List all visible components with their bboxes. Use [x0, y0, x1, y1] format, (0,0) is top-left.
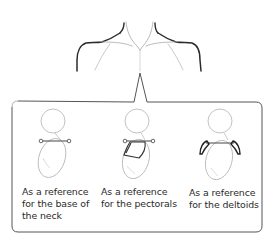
caption-line: As a reference: [189, 187, 259, 199]
shoulders-illustration: [77, 22, 201, 71]
caption-line: for the deltoids: [189, 199, 259, 211]
caption-line: As a reference: [101, 186, 177, 198]
caption-line: the neck: [22, 210, 89, 222]
panel-2-figure: [118, 109, 155, 182]
caption-line: As a reference: [22, 186, 89, 198]
caption-pectorals: As a reference for the pectorals: [101, 186, 177, 210]
caption-line: for the pectorals: [101, 198, 177, 210]
caption-line: for the base of: [22, 198, 89, 210]
panel-3-figure: [200, 109, 240, 183]
panel-1-figure: [33, 109, 70, 181]
caption-deltoids: As a reference for the deltoids: [189, 187, 259, 211]
pectorals-shape: [124, 142, 145, 158]
caption-neck-base: As a reference for the base of the neck: [22, 186, 89, 222]
